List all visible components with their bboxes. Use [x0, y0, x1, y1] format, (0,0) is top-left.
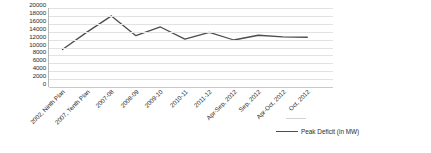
y-tick-label: 6000	[6, 57, 46, 63]
y-tick-label: 10000	[6, 42, 46, 48]
x-tick-label: 2002, Ninth Plan	[19, 88, 66, 135]
x-tick-label: 2008-09	[92, 88, 139, 135]
y-tick-label: 8000	[6, 49, 46, 55]
y-tick-label: 16000	[6, 18, 46, 24]
gridline	[49, 63, 333, 64]
y-tick-label: 4000	[6, 65, 46, 71]
x-tick-label: 2007, Tenth Plan	[44, 88, 91, 135]
x-axis: 2002, Ninth Plan2007, Tenth Plan2007-082…	[0, 88, 431, 148]
x-tick-label: 2007-08	[68, 88, 115, 135]
y-tick-label: 14000	[6, 26, 46, 32]
gridline	[49, 40, 333, 41]
chart-legend: Peak Deficit (in MW)	[276, 128, 359, 135]
gridline	[49, 16, 333, 17]
y-tick-label: 2000	[6, 73, 46, 79]
x-tick-label: Sep, 2012	[215, 88, 262, 135]
x-tick-label: Apr-Sep, 2012	[190, 88, 237, 135]
y-tick-label: 18000	[6, 10, 46, 16]
y-tick-label: 0	[6, 81, 46, 87]
x-tick-label: 2011-12	[166, 88, 213, 135]
gridline	[49, 55, 333, 56]
gridline	[49, 79, 333, 80]
y-axis: 2000018000160001400012000100008000600040…	[6, 5, 46, 89]
peak-deficit-line-chart: 2000018000160001400012000100008000600040…	[0, 0, 431, 153]
plot-area	[48, 8, 333, 87]
x-tick-label: 2010-11	[141, 88, 188, 135]
y-tick-label: 12000	[6, 34, 46, 40]
gridline	[49, 24, 333, 25]
legend-item-peak-deficit: Peak Deficit (in MW)	[301, 128, 359, 135]
y-tick-label: 20000	[6, 2, 46, 8]
gridline	[49, 8, 333, 9]
legend-line-swatch	[276, 131, 298, 132]
x-tick-label: 2009-10	[117, 88, 164, 135]
legend-ghost-line	[286, 118, 306, 119]
gridline	[49, 48, 333, 49]
gridline	[49, 32, 333, 33]
gridline	[49, 71, 333, 72]
